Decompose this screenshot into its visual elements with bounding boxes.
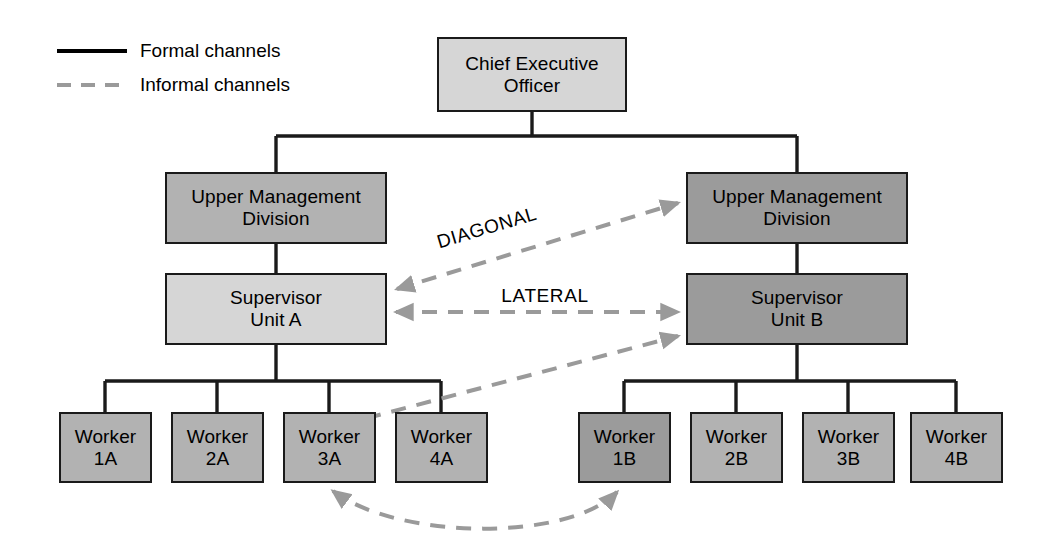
node-um_b[interactable]: Upper Management Division bbox=[686, 172, 908, 244]
legend-informal-label: Informal channels bbox=[140, 74, 290, 96]
node-um_a[interactable]: Upper Management Division bbox=[165, 172, 387, 244]
node-sup_b-label: Supervisor Unit B bbox=[751, 287, 843, 331]
node-w1a-label: Worker 1A bbox=[75, 426, 136, 470]
node-ceo-label: Chief Executive Officer bbox=[465, 53, 599, 97]
node-w4a[interactable]: Worker 4A bbox=[395, 412, 488, 483]
node-w2b-label: Worker 2B bbox=[706, 426, 767, 470]
node-w3a[interactable]: Worker 3A bbox=[283, 412, 376, 483]
node-w1b-label: Worker 1B bbox=[594, 426, 655, 470]
lateral-flow-label: LATERAL bbox=[501, 285, 588, 307]
node-um_b-label: Upper Management Division bbox=[712, 186, 882, 230]
node-sup_b[interactable]: Supervisor Unit B bbox=[686, 273, 908, 345]
node-w4a-label: Worker 4A bbox=[411, 426, 472, 470]
node-w1a[interactable]: Worker 1A bbox=[59, 412, 152, 483]
node-um_a-label: Upper Management Division bbox=[191, 186, 361, 230]
node-w3b-label: Worker 3B bbox=[818, 426, 879, 470]
node-ceo[interactable]: Chief Executive Officer bbox=[437, 37, 627, 112]
node-w2a-label: Worker 2A bbox=[187, 426, 248, 470]
node-w3b[interactable]: Worker 3B bbox=[802, 412, 895, 483]
node-sup_a-label: Supervisor Unit A bbox=[230, 287, 322, 331]
node-w3a-label: Worker 3A bbox=[299, 426, 360, 470]
node-w4b-label: Worker 4B bbox=[926, 426, 987, 470]
node-w4b[interactable]: Worker 4B bbox=[910, 412, 1003, 483]
node-w1b[interactable]: Worker 1B bbox=[578, 412, 671, 483]
node-sup_a[interactable]: Supervisor Unit A bbox=[165, 273, 387, 345]
formal-channel-edges bbox=[105, 112, 956, 412]
legend-formal-label: Formal channels bbox=[140, 40, 280, 62]
node-w2b[interactable]: Worker 2B bbox=[690, 412, 783, 483]
edge-curved-w3a-w1b bbox=[333, 491, 617, 529]
node-w2a[interactable]: Worker 2A bbox=[171, 412, 264, 483]
org-chart-diagram: Formal channels Informal channels DIAGON… bbox=[0, 0, 1057, 537]
